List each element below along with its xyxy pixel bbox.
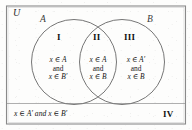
region-iv-description: x ∈ A′ and x ∈ B′ [14,110,67,118]
region-label-i: I [57,33,61,42]
set-b-label: B [147,15,153,25]
region-label-ii: II [93,33,100,42]
set-a-label: A [40,15,46,25]
region-label-iv: IV [163,110,173,119]
region-ii-description: x ∈ A and x ∈ B [78,56,118,82]
region-ii-line-3: x ∈ B [78,73,118,82]
region-iii-description: x ∈ A′ and x ∈ B [116,56,156,82]
region-iii-line-3: x ∈ B [116,73,156,82]
universe-label: U [13,8,20,18]
region-i-description: x ∈ A and x ∈ B′ [38,56,78,82]
region-label-iii: III [124,33,135,42]
venn-diagram-figure: U A B I II III x ∈ A and x ∈ B′ x ∈ A an… [0,0,192,130]
region-i-line-3: x ∈ B′ [38,73,78,82]
